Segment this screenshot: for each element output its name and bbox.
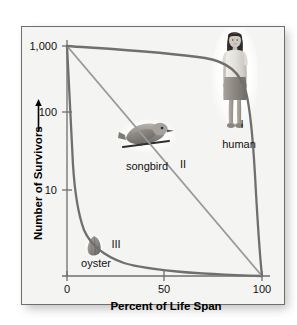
curve-label-ii: II [180,158,186,170]
x-tick-label-50: 50 [158,283,170,295]
curve-label-i: I [240,118,243,130]
survivorship-curve-figure: 1,000 100 10 0 50 100 Number of Survivor… [0,0,296,325]
y-tick-label-1000: 1,000 [29,40,57,52]
x-tick-label-100: 100 [253,283,271,295]
y-tick-label-10: 10 [45,184,57,196]
y-axis-title: Number of Survivors [32,126,44,240]
plot-area: 1,000 100 10 0 50 100 Number of Survivor… [0,0,296,325]
species-label-oyster: oyster [81,257,111,269]
x-axis-title: Percent of Life Span [110,300,221,312]
curve-label-iii: III [111,238,120,250]
x-tick-label-0: 0 [64,283,70,295]
y-tick-label-100: 100 [39,106,57,118]
species-label-human: human [222,138,256,150]
species-label-songbird: songbird [126,160,168,172]
plot-svg: 1,000 100 10 0 50 100 Number of Survivor… [0,0,296,325]
